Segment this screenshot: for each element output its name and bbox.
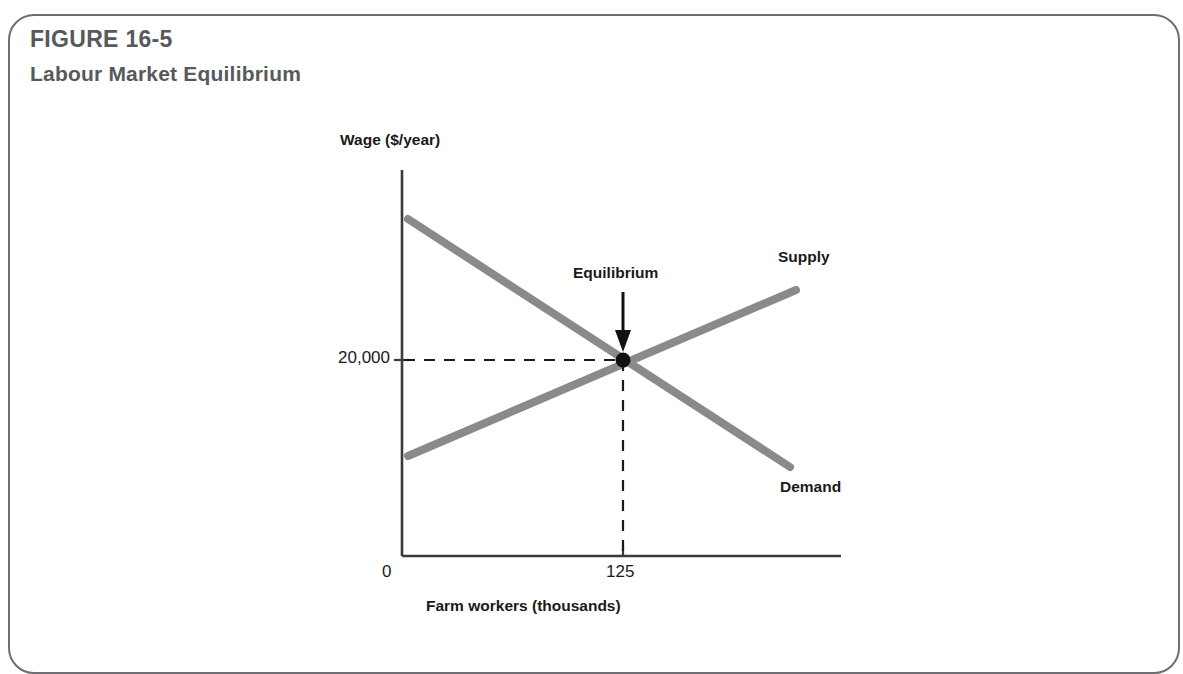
y-axis-tick-label-20000: 20,000 bbox=[338, 348, 390, 368]
x-axis-tick-label-0: 0 bbox=[382, 562, 391, 582]
y-axis-label: Wage ($/year) bbox=[340, 131, 440, 149]
equilibrium-point-marker bbox=[616, 353, 631, 368]
demand-curve-label: Demand bbox=[780, 478, 841, 496]
supply-curve-label: Supply bbox=[778, 248, 830, 266]
x-axis-label: Farm workers (thousands) bbox=[426, 597, 621, 615]
equilibrium-annotation-label: Equilibrium bbox=[573, 264, 658, 282]
equilibrium-arrow-head bbox=[615, 330, 631, 352]
x-axis-tick-label-125: 125 bbox=[606, 562, 634, 582]
